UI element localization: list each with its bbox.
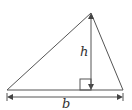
base-label: b	[62, 96, 70, 110]
height-label: h	[80, 44, 88, 59]
base-arrow-left-icon	[7, 94, 13, 100]
height-arrow-top-icon	[88, 13, 94, 19]
triangle-diagram: h b	[0, 0, 132, 110]
base-arrow-right-icon	[117, 94, 123, 100]
height-line	[88, 13, 94, 90]
triangle	[7, 13, 123, 90]
